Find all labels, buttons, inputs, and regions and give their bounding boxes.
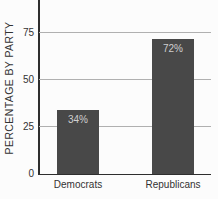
x-category-label-democrats: Democrats [38, 179, 118, 190]
gridline-75 [39, 32, 211, 33]
bar-republicans: 72% [152, 39, 194, 174]
bar-value-label: 72% [152, 43, 194, 54]
bar-democrats: 34% [57, 110, 99, 174]
y-tick-label-75: 75 [4, 28, 34, 38]
y-tick-label-50: 50 [4, 75, 34, 85]
y-tick-label-0: 0 [4, 169, 34, 179]
bar-value-label: 34% [57, 114, 99, 125]
plot-area: 34%72% [39, 0, 211, 174]
x-category-label-republicans: Republicans [133, 179, 213, 190]
y-axis-title: PERCENTAGE BY PARTY [3, 22, 15, 155]
bar-chart-figure: PERCENTAGE BY PARTY 34%72% 0255075Democr… [0, 0, 218, 199]
y-tick-label-25: 25 [4, 122, 34, 132]
